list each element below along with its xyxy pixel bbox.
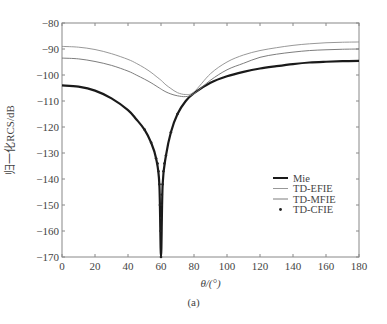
- rcs-chart: 020406080100120140160180−80−90−100−110−1…: [0, 0, 387, 324]
- figure-caption: (a): [0, 296, 387, 308]
- axes-frame: [62, 23, 359, 257]
- x-tick-label: 60: [156, 260, 168, 272]
- x-tick-label: 100: [219, 260, 236, 272]
- cfie-marker: [159, 217, 161, 219]
- x-tick-label: 0: [59, 260, 65, 272]
- y-axis-label: 归一化RCS/dB: [3, 105, 16, 175]
- y-tick-label: −120: [36, 121, 59, 133]
- legend-label-td-mfie: TD-MFIE: [293, 194, 336, 205]
- cfie-marker: [155, 157, 158, 160]
- series-mie: [62, 61, 359, 257]
- y-tick-label: −90: [42, 43, 60, 55]
- y-tick-label: −160: [36, 225, 59, 237]
- x-tick-label: 140: [285, 260, 302, 272]
- y-tick-label: −80: [42, 17, 60, 29]
- cfie-marker: [159, 230, 161, 232]
- y-tick-label: −150: [36, 199, 59, 211]
- legend: MieTD-EFIETD-MFIETD-CFIE: [273, 173, 336, 216]
- series-group: [62, 42, 359, 258]
- x-tick-label: 20: [90, 260, 102, 272]
- x-axis-label: θ/(°): [200, 277, 221, 290]
- cfie-marker: [165, 154, 168, 157]
- cfie-marker: [150, 141, 153, 144]
- legend-swatch-td-cfie: [279, 208, 282, 211]
- cfie-marker: [170, 131, 173, 134]
- cfie-marker: [157, 162, 159, 164]
- legend-label-td-efie: TD-EFIE: [293, 183, 333, 194]
- cfie-marker: [157, 170, 159, 172]
- x-tick-label: 180: [351, 260, 368, 272]
- y-tick-label: −130: [36, 147, 59, 159]
- cfie-marker: [160, 256, 163, 259]
- legend-label-td-cfie: TD-CFIE: [293, 204, 333, 215]
- x-tick-label: 120: [252, 260, 269, 272]
- cfie-marker: [176, 113, 179, 116]
- cfie-marker: [163, 162, 165, 164]
- x-tick-label: 80: [189, 260, 201, 272]
- x-tick-label: 160: [318, 260, 335, 272]
- y-tick-label: −140: [36, 173, 59, 185]
- cfie-marker: [161, 193, 163, 195]
- cfie-marker: [161, 183, 164, 186]
- y-tick-label: −170: [36, 251, 59, 263]
- series-td-mfie: [62, 49, 359, 97]
- x-tick-label: 40: [123, 260, 135, 272]
- cfie-marker: [143, 128, 146, 131]
- y-tick-label: −110: [37, 95, 60, 107]
- legend-label-mie: Mie: [293, 173, 310, 184]
- axes: 020406080100120140160180−80−90−100−110−1…: [3, 17, 368, 290]
- cfie-marker: [160, 204, 162, 206]
- cfie-marker: [162, 170, 164, 172]
- cfie-marker: [158, 183, 161, 186]
- y-tick-label: −100: [36, 69, 59, 81]
